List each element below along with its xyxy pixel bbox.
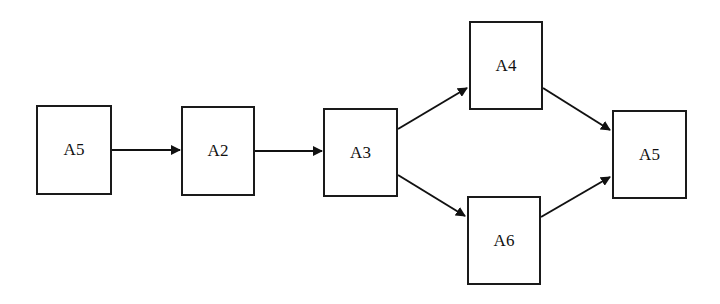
edge-a3-a6 xyxy=(398,175,465,216)
edge-a4-a5 xyxy=(543,88,610,130)
node-a5-start: A5 xyxy=(36,105,112,195)
node-a5-end: A5 xyxy=(612,110,687,199)
node-a2: A2 xyxy=(181,106,255,196)
node-label: A3 xyxy=(350,143,371,163)
node-label: A6 xyxy=(494,231,515,251)
edge-a3-a4 xyxy=(398,88,467,129)
edge-a6-a5 xyxy=(541,177,610,217)
node-label: A2 xyxy=(208,141,229,161)
node-a3: A3 xyxy=(323,108,398,197)
node-label: A4 xyxy=(496,56,517,76)
node-a4: A4 xyxy=(469,21,543,110)
node-label: A5 xyxy=(64,140,85,160)
node-a6: A6 xyxy=(467,196,541,285)
node-label: A5 xyxy=(639,145,660,165)
